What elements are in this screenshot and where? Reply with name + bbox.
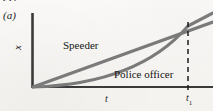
speeder-curve-label: Speeder [63, 39, 98, 51]
police-officer-curve-label: Police officer [114, 68, 173, 80]
y-axis-title: x [12, 45, 23, 49]
physics-figure-position-vs-time: 77. (a) x t t1 Speeder Police officer [0, 0, 213, 111]
x-axis-title: t [105, 93, 108, 104]
t1-subscript: 1 [189, 99, 193, 107]
t1-tick-label: t1 [186, 92, 192, 106]
